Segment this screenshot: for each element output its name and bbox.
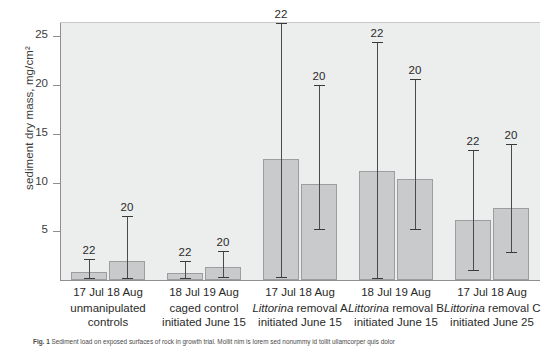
sample-size-label: 22 <box>261 8 301 20</box>
group-dates: 18 Jul 19 Aug <box>348 286 444 300</box>
x-group-label-3: 17 Jul 18 AugLittorina removal Ainitiate… <box>252 286 348 329</box>
group-dates: 17 Jul 18 Aug <box>60 286 156 300</box>
figure-container: sediment dry mass, mg/cm² 510152025 2220… <box>0 0 560 350</box>
error-bar-cap-upper <box>180 261 191 262</box>
error-bar-line <box>223 251 224 277</box>
y-tick-label: 5 <box>42 223 48 235</box>
error-bar-cap-lower <box>84 278 95 279</box>
figure-caption: Fig. 1 Sediment load on exposed surfaces… <box>33 338 533 350</box>
group-name-line1: Littorina removal A <box>252 302 348 316</box>
error-bar-cap-upper <box>410 79 421 80</box>
genus-name: Littorina <box>444 302 485 314</box>
y-tick-label: 15 <box>35 126 48 138</box>
group-name-line2: initiated June 15 <box>156 316 252 330</box>
error-bar-cap-lower <box>506 252 517 253</box>
x-group-label-5: 17 Jul 18 AugLittorina removal Cinitiate… <box>444 286 540 329</box>
error-bar-cap-lower <box>372 278 383 279</box>
y-tick-mark <box>53 183 60 184</box>
error-bar-cap-upper <box>84 259 95 260</box>
y-tick-label: 20 <box>35 77 48 89</box>
group-dates: 18 Jul 19 Aug <box>156 286 252 300</box>
y-tick-mark <box>53 36 60 37</box>
y-tick-mark <box>53 85 60 86</box>
group-name-line2: initiated June 25 <box>444 316 540 330</box>
genus-name: Littorina <box>348 302 389 314</box>
sample-size-label: 20 <box>107 201 147 213</box>
group-name-line1: Littorina removal C <box>444 302 540 316</box>
sample-size-label: 22 <box>357 27 397 39</box>
x-axis-line <box>60 280 540 281</box>
error-bar-cap-upper <box>506 144 517 145</box>
error-bar-line <box>511 144 512 252</box>
error-bar-cap-upper <box>122 216 133 217</box>
y-axis-label: sediment dry mass, mg/cm² <box>23 3 35 233</box>
error-bar-cap-upper <box>218 251 229 252</box>
x-group-label-2: 18 Jul 19 Augcaged controlinitiated June… <box>156 286 252 329</box>
y-tick-label: 10 <box>35 175 48 187</box>
group-name-line2: controls <box>60 316 156 330</box>
sample-size-label: 20 <box>395 64 435 76</box>
genus-name: Littorina <box>252 302 293 314</box>
x-group-label-4: 18 Jul 19 AugLittorina removal Binitiate… <box>348 286 444 329</box>
caption-label: Fig. 1 <box>33 338 51 345</box>
x-group-label-1: 17 Jul 18 Augunmanipulatedcontrols <box>60 286 156 329</box>
y-tick-mark <box>53 231 60 232</box>
sample-size-label: 20 <box>299 70 339 82</box>
error-bar-cap-lower <box>314 229 325 230</box>
group-name-line2: initiated June 15 <box>252 316 348 330</box>
error-bar-cap-upper <box>468 150 479 151</box>
error-bar-cap-lower <box>276 277 287 278</box>
error-bar-cap-upper <box>314 85 325 86</box>
error-bar-cap-lower <box>468 270 479 271</box>
sample-size-label: 22 <box>165 246 205 258</box>
group-dates: 17 Jul 18 Aug <box>444 286 540 300</box>
sample-size-label: 22 <box>453 135 493 147</box>
error-bar-cap-lower <box>410 229 421 230</box>
error-bar-line <box>185 261 186 279</box>
group-name-line1: caged control <box>156 302 252 316</box>
group-name-line1: unmanipulated <box>60 302 156 316</box>
error-bar-line <box>473 150 474 270</box>
group-name-line1: Littorina removal B <box>348 302 444 316</box>
error-bar-cap-lower <box>180 278 191 279</box>
sample-size-label: 20 <box>203 236 243 248</box>
sample-size-label: 20 <box>491 129 531 141</box>
y-tick-mark <box>53 134 60 135</box>
error-bar-line <box>89 259 90 279</box>
error-bar-line <box>127 216 128 278</box>
y-tick-label: 25 <box>35 28 48 40</box>
sample-size-label: 22 <box>69 244 109 256</box>
error-bar-cap-lower <box>122 278 133 279</box>
error-bar-line <box>377 42 378 278</box>
plot-top-border <box>60 22 540 23</box>
error-bar-line <box>415 79 416 229</box>
error-bar-line <box>319 85 320 229</box>
error-bar-cap-upper <box>276 23 287 24</box>
error-bar-cap-lower <box>218 277 229 278</box>
error-bar-line <box>281 23 282 277</box>
group-name-line2: initiated June 15 <box>348 316 444 330</box>
error-bar-cap-upper <box>372 42 383 43</box>
group-dates: 17 Jul 18 Aug <box>252 286 348 300</box>
caption-text: Sediment load on exposed surfaces of roc… <box>51 338 394 345</box>
